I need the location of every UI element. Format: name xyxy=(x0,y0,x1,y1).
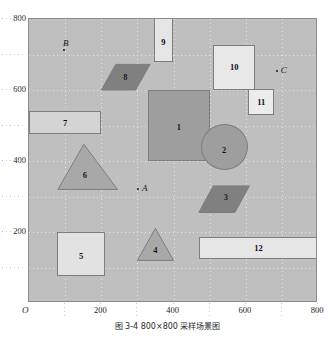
gridline-stub xyxy=(2,231,26,232)
gridline-stub xyxy=(2,267,26,268)
gridline-stub xyxy=(209,303,210,317)
figure-container: 200400600800 123456789101112 ABC 2004006… xyxy=(0,0,335,338)
origin-label: O xyxy=(22,306,29,315)
gridline-stub xyxy=(2,54,26,55)
gridline-stub xyxy=(2,89,26,90)
gridline-stub xyxy=(136,303,137,317)
obstacle-label-12: 12 xyxy=(254,243,263,252)
gridline-stub xyxy=(173,303,174,317)
figure-caption: 图 3-4 800×800 采样场景图 xyxy=(0,322,335,332)
obstacle-label-10: 10 xyxy=(230,62,239,71)
point-label-A: A xyxy=(142,184,148,193)
gridline-stub xyxy=(245,303,246,317)
x-tick-label: 800 xyxy=(297,306,335,315)
obstacle-label-8: 8 xyxy=(123,72,127,81)
gridline-stub xyxy=(2,18,26,19)
gridline-stub xyxy=(100,303,101,317)
gridline-stub xyxy=(2,160,26,161)
point-marker-C xyxy=(276,70,278,72)
gridline-stub xyxy=(2,196,26,197)
x-axis-labels: 200400600800 xyxy=(0,306,335,318)
y-axis-labels: 200400600800 xyxy=(0,0,26,338)
point-label-C: C xyxy=(281,66,287,75)
gridline-stub xyxy=(317,303,318,317)
obstacle-label-9: 9 xyxy=(161,37,165,46)
point-marker-A xyxy=(137,188,139,190)
point-label-B: B xyxy=(63,39,69,48)
gridline-stub xyxy=(2,125,26,126)
gridline-stub xyxy=(281,303,282,317)
gridline-stub xyxy=(64,303,65,317)
obstacle-label-11: 11 xyxy=(257,98,265,107)
plot-area: 123456789101112 ABC xyxy=(28,18,317,302)
